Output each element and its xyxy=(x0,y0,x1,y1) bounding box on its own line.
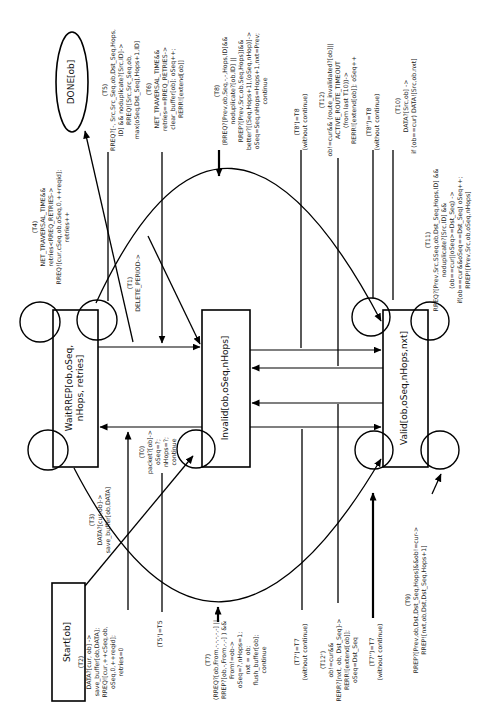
transition-label-t11: (T11) RREQ?[Prev,Src,SSeq,ob,Dst_Seq,Hop… xyxy=(424,169,472,312)
transition-label-t10: (T10) DATA?[Src,ob] -> if (ob==cur) DATA… xyxy=(394,58,418,153)
transition-label-t2: (T2) DATA?[cur, ob] -> save_buffer[ob,DA… xyxy=(77,626,125,697)
transition-label-t8p: (T8')=T8 (without continue) xyxy=(293,94,309,151)
leader-t9 xyxy=(432,474,441,494)
transition-label-t7p: (T7')=T7 (without continue) xyxy=(293,624,309,681)
transition-label-t7pp: (T7'')=T7 (without continue) xyxy=(368,624,384,681)
transition-label-t12: (T12) ob!=cur&& (route_invalidated?[ob]|… xyxy=(318,43,358,156)
state-waitrrep-label: WaitRREP[ob,oSeq, nHops, retries] xyxy=(64,345,87,431)
transition-label-t4: (T4) NET_TRAVERSAL_TIME&& retries<RREQ_R… xyxy=(31,170,71,285)
transition-label-t8: (T8) (RREQ?[Prev,ob,Seq,-,-,Hops,ID]&& n… xyxy=(213,32,269,150)
transition-label-t12p: (T12') ob!=cur&& RERR?[nxt, ob, Dst_Seq]… xyxy=(319,618,359,701)
transition-label-t6: (T6) NET_TRAVERSAL_TIME&& retries==RREQ_… xyxy=(145,47,185,131)
state-invalid-label: Invalid[ob,oSeq,nHops] xyxy=(220,336,231,441)
transition-label-t0: (T0) packet?[ob]-> oSeq=?; nHops=?; cont… xyxy=(138,430,178,474)
state-done-label: DONE[ob] xyxy=(66,60,77,105)
transition-label-t8pp: (T8'')=T8 (without continue) xyxy=(365,94,381,151)
state-machine-diagram: DONE[ob] WaitRREP[ob,oSeq, nHops, retrie… xyxy=(0,0,489,721)
state-start-label: Start[ob] xyxy=(62,622,73,662)
arrow-t1 xyxy=(148,236,200,344)
arc-bottom-t7 xyxy=(74,459,381,602)
transition-label-t9: (T9) RREP?[Prev,ob,Dst,Dst_Seq,Hops]&&ob… xyxy=(404,527,428,674)
transition-label-t5: (T5) RREQ?[-, Src,Src_Seq,ob,Dst_Seq,Hop… xyxy=(101,29,141,151)
transition-label-t3: (T3) DATA?[cur,ob]-> save_buffer[ob,DATA… xyxy=(88,487,112,554)
transition-label-t1: (T1) DELETE_PERIOD-> xyxy=(126,254,142,312)
transition-label-t5p: (T5')=T5 xyxy=(156,620,164,647)
transition-label-t7: (T7) (RREQ?[ob,From,-,-,-,-,-] || RREP?[… xyxy=(204,620,269,700)
state-valid-label: Valid[ob,oSeq,nHops,nxt] xyxy=(399,331,410,445)
